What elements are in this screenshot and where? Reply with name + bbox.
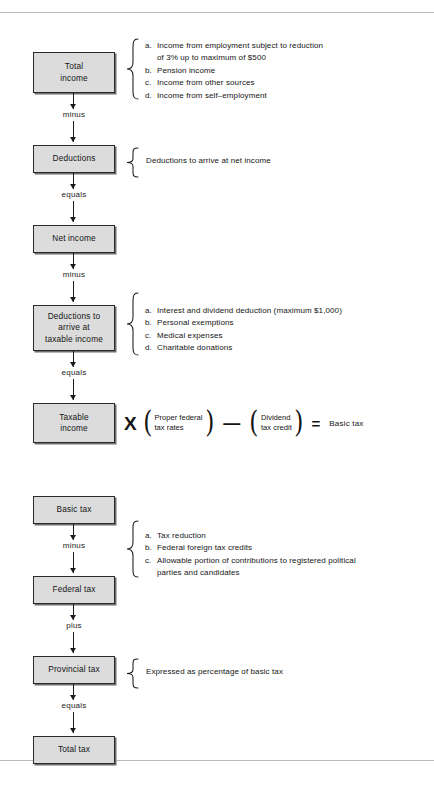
arrow-head [70, 648, 76, 653]
minus-symbol: — [223, 415, 240, 432]
list-text: Tax reduction [157, 530, 430, 542]
list-marker: a. [145, 40, 157, 52]
annotation-total-income: a. Income from employment subject to red… [145, 40, 425, 102]
list-text: Medical expenses [157, 330, 430, 342]
annotation-item: a. Tax reduction [145, 530, 430, 542]
list-text: Pension income [157, 65, 425, 77]
arrow-head [70, 568, 76, 573]
box-total-tax: Total tax [33, 736, 115, 764]
box-deductions-taxable-line-1: Deductions to [48, 311, 101, 323]
annotation-item: c. Allowable portion of contributions to… [145, 555, 430, 567]
arrow-head [70, 217, 76, 222]
box-basic-tax-line-1: Basic tax [56, 504, 91, 516]
box-provincial-tax-line-1: Provincial tax [48, 664, 99, 676]
dividend-credit-line-1: Dividend [261, 413, 292, 424]
brace-provincial-tax [126, 658, 139, 689]
list-text: Charitable donations [157, 342, 430, 354]
list-continuation: of 3% up to maximum of $500 [145, 52, 425, 64]
top-horizontal-rule [0, 12, 434, 13]
operator-plus-1: plus [0, 621, 148, 630]
brace-deductions [126, 147, 139, 178]
flowchart-page: Total income a. Income from employment s… [0, 0, 434, 789]
operator-equals-3: equals [0, 701, 148, 710]
arrow-head [70, 728, 76, 733]
list-text: Interest and dividend deduction (maximum… [157, 305, 430, 317]
federal-rate-line-1: Proper federal [154, 413, 202, 424]
annotation-item: a. Interest and dividend deduction (maxi… [145, 305, 430, 317]
box-deductions-line-1: Deductions [52, 153, 95, 165]
list-continuation: parties and candidates [145, 567, 430, 579]
operator-minus-1: minus [0, 110, 148, 119]
arrow-head [70, 395, 76, 400]
arrow-head [70, 297, 76, 302]
operator-minus-2: minus [0, 270, 148, 279]
arrow-head [70, 695, 76, 700]
arrow-head [70, 264, 76, 269]
list-text: Allowable portion of contributions to re… [157, 555, 430, 567]
brace-basic-tax [126, 520, 139, 578]
box-taxable-income-line-2: income [60, 423, 88, 435]
annotation-item: d. Income from self–employment [145, 90, 425, 102]
box-net-income: Net income [33, 225, 115, 253]
box-deductions-taxable-income: Deductions to arrive at taxable income [33, 305, 115, 351]
box-deductions-taxable-line-2: arrive at [58, 322, 89, 334]
annotation-deductions-taxable-income: a. Interest and dividend deduction (maxi… [145, 305, 430, 355]
list-marker: b. [145, 317, 157, 329]
annotation-item: d. Charitable donations [145, 342, 430, 354]
annotation-item: c. Income from other sources [145, 77, 425, 89]
box-total-tax-line-1: Total tax [58, 744, 90, 756]
equation-result-basic-tax: Basic tax [329, 419, 363, 428]
list-text: Income from other sources [157, 77, 425, 89]
brace-total-income [126, 38, 139, 100]
box-provincial-tax: Provincial tax [33, 656, 115, 684]
box-total-income-line-1: Total [65, 61, 83, 73]
list-text: Income from self–employment [157, 90, 425, 102]
annotation-item: b. Personal exemptions [145, 317, 430, 329]
box-taxable-income: Taxable income [33, 403, 115, 443]
list-marker: c. [145, 555, 157, 567]
operator-equals-2: equals [0, 368, 148, 377]
dividend-credit-lines: Dividend tax credit [260, 413, 293, 434]
equals-symbol: = [312, 416, 321, 431]
box-net-income-line-1: Net income [52, 233, 95, 245]
annotation-provincial-tax: Expressed as percentage of basic tax [146, 666, 416, 678]
list-text: Federal foreign tax credits [157, 542, 430, 554]
arrow-head [70, 535, 76, 540]
basic-tax-equation: X ( Proper federal tax rates ) — ( Divid… [120, 406, 364, 440]
annotation-item: b. Federal foreign tax credits [145, 542, 430, 554]
list-marker: a. [145, 305, 157, 317]
annotation-item: c. Medical expenses [145, 330, 430, 342]
box-deductions-taxable-line-3: taxable income [45, 334, 103, 346]
annotation-basic-tax: a. Tax reduction b. Federal foreign tax … [145, 530, 430, 580]
list-marker: b. [145, 65, 157, 77]
box-total-income-line-2: income [60, 73, 88, 85]
federal-rate-line-2: tax rates [154, 423, 202, 434]
arrow-head [70, 137, 76, 142]
box-federal-tax-line-1: Federal tax [52, 584, 95, 596]
dividend-tax-credit-group: ( Dividend tax credit ) [248, 413, 304, 434]
box-taxable-income-line-1: Taxable [59, 412, 89, 424]
box-deductions: Deductions [33, 145, 115, 173]
box-total-income: Total income [33, 52, 115, 93]
list-marker: d. [145, 90, 157, 102]
list-marker: a. [145, 530, 157, 542]
box-basic-tax: Basic tax [33, 496, 115, 524]
list-marker: d. [145, 342, 157, 354]
federal-tax-rates-lines: Proper federal tax rates [153, 413, 203, 434]
annotation-item: a. Income from employment subject to red… [145, 40, 425, 52]
multiplication-symbol: X [124, 414, 137, 433]
list-marker: c. [145, 330, 157, 342]
arrow-head [70, 362, 76, 367]
list-marker: c. [145, 77, 157, 89]
annotation-item: b. Pension income [145, 65, 425, 77]
brace-deductions-taxable-income [126, 292, 139, 356]
annotation-deductions: Deductions to arrive at net income [146, 155, 416, 167]
box-federal-tax: Federal tax [33, 576, 115, 604]
arrow-head [70, 184, 76, 189]
list-marker: b. [145, 542, 157, 554]
list-text: Income from employment subject to reduct… [157, 40, 425, 52]
dividend-credit-line-2: tax credit [261, 423, 292, 434]
list-text: Personal exemptions [157, 317, 430, 329]
arrow-head [70, 615, 76, 620]
federal-tax-rates-group: ( Proper federal tax rates ) [142, 413, 216, 434]
